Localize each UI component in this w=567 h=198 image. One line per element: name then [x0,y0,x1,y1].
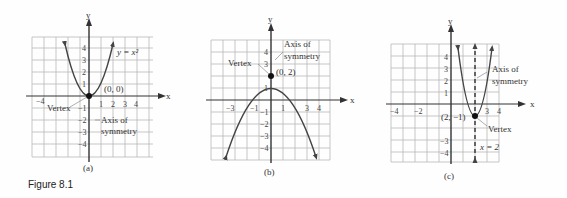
svg-text:4: 4 [264,48,268,57]
svg-text:−2: −2 [414,107,423,116]
svg-text:3: 3 [305,104,309,113]
svg-text:1: 1 [99,100,103,109]
vertex-dot-a [86,93,92,99]
svg-text:−2: −2 [260,120,269,129]
svg-text:3: 3 [82,56,86,65]
svg-text:−4: −4 [36,97,45,106]
axis-label-c-1: Axis of [492,64,519,74]
axis-equation-c: x = 2 [479,142,500,152]
vertex-point-b: (0, 2) [276,67,296,77]
vertex-point-c: (2, −1) [441,112,466,122]
caption-b: (b) [264,167,275,177]
vertex-label-a: Vertex [47,103,71,113]
svg-text:−2: −2 [78,116,87,125]
svg-text:−3: −3 [440,137,449,146]
axis-label-c-2: symmetry [492,76,528,86]
svg-text:4: 4 [317,104,321,113]
caption-c: (c) [444,171,454,181]
svg-text:−4: −4 [78,140,87,149]
svg-text:3: 3 [123,100,127,109]
svg-text:1: 1 [264,84,268,93]
svg-text:3: 3 [485,107,489,116]
svg-text:−4: −4 [390,107,399,116]
svg-text:−3: −3 [78,128,87,137]
graph-b: x y Axis of symmetry Vertex (0, 2) −3 −1… [206,14,355,177]
svg-text:−1: −1 [250,104,259,113]
figure-label: Figure 8.1 [28,179,73,190]
svg-text:3: 3 [264,60,268,69]
svg-text:1: 1 [82,80,86,89]
axis-label-b-2: symmetry [284,51,320,61]
svg-text:1: 1 [444,89,448,98]
svg-text:−3: −3 [226,104,235,113]
figure-canvas: x y y = x² (0, 0) Vertex Axis of symmetr… [0,0,567,198]
svg-text:2: 2 [444,77,448,86]
svg-text:4: 4 [497,107,501,116]
svg-text:3: 3 [444,65,448,74]
vertex-point-a: (0, 0) [104,84,124,94]
y-axis-label-c: y [448,16,453,26]
caption-a: (a) [83,163,93,173]
y-axis-label-b: y [268,14,273,24]
axis-label-b-1: Axis of [284,39,311,49]
vertex-label-b: Vertex [228,58,252,68]
svg-text:−4: −4 [260,144,269,153]
svg-text:1: 1 [281,104,285,113]
svg-text:4: 4 [444,53,448,62]
graph-c: x y Axis of symmetry (2, −1) Vertex x = … [386,16,535,181]
y-ticks-c: 4 3 2 1 −3 −4 [440,53,449,158]
equation-a: y = x² [116,47,139,57]
x-axis-label-b: x [350,95,355,105]
svg-text:−1: −1 [260,108,269,117]
svg-text:4: 4 [82,44,86,53]
svg-text:−1: −1 [78,104,87,113]
graph-a: x y y = x² (0, 0) Vertex Axis of symmetr… [26,10,171,173]
svg-text:2: 2 [82,68,86,77]
axis-label-a-2: symmetry [101,126,137,136]
vertex-label-c: Vertex [488,124,512,134]
x-axis-label-c: x [530,99,535,109]
svg-text:4: 4 [134,100,138,109]
y-axis-label-a: y [86,10,91,20]
axis-label-a-1: Axis of [101,115,128,125]
svg-text:−3: −3 [260,132,269,141]
svg-text:2: 2 [111,100,115,109]
x-axis-label-a: x [166,91,171,101]
svg-text:−4: −4 [440,149,449,158]
